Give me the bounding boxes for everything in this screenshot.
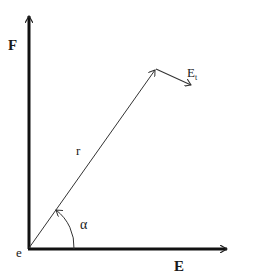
tangent-label-main: E	[187, 65, 195, 80]
origin-label: e	[16, 245, 22, 260]
tangent-label: Et	[187, 65, 198, 82]
y-axis-label: F	[8, 37, 17, 53]
r-vector	[29, 70, 155, 248]
angle-label: α	[80, 217, 88, 232]
angle-arc	[56, 210, 74, 249]
x-axis-label: E	[174, 258, 184, 274]
diagram-canvas: F E e r α Et	[0, 0, 253, 278]
vector-r-label: r	[76, 143, 81, 158]
tangent-vector	[156, 69, 191, 85]
tangent-label-sub: t	[195, 73, 198, 82]
